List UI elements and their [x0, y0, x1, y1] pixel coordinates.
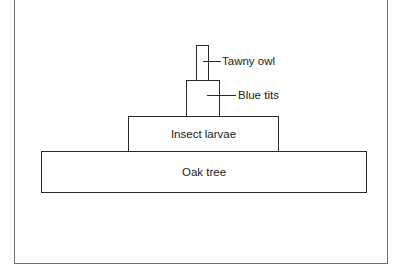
leader-line-blue-tits	[207, 95, 236, 96]
leader-line-tawny-owl	[203, 61, 221, 62]
level-label-blue-tits: Blue tits	[238, 89, 279, 101]
pyramid-level-insect-larvae: Insect larvae	[128, 116, 279, 152]
level-label: Insect larvae	[171, 128, 236, 140]
pyramid-level-blue-tits	[186, 80, 220, 117]
level-label-tawny-owl: Tawny owl	[222, 55, 275, 67]
level-label: Oak tree	[182, 166, 226, 178]
pyramid-level-tawny-owl	[196, 45, 209, 81]
pyramid-level-oak-tree: Oak tree	[41, 151, 367, 193]
